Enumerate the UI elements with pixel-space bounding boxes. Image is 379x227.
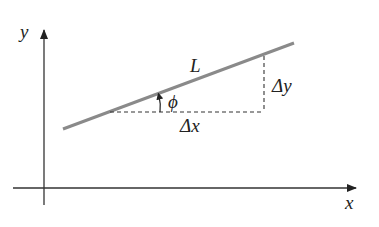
slope-diagram: y x L ϕ Δx Δy	[0, 0, 379, 227]
line-L	[63, 43, 294, 129]
y-axis-label: y	[20, 22, 28, 41]
diagram-graphics	[0, 0, 379, 227]
delta-y-label: Δy	[272, 76, 292, 95]
delta-x-label: Δx	[180, 116, 200, 135]
angle-label: ϕ	[168, 92, 178, 111]
x-axis-label: x	[345, 193, 353, 212]
line-label: L	[190, 56, 201, 75]
angle-arc-icon	[159, 96, 160, 112]
